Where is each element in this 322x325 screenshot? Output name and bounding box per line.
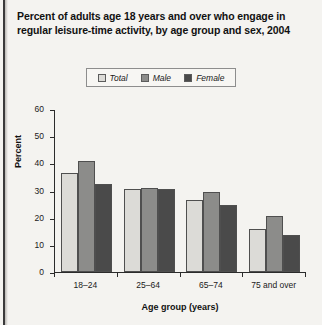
y-tick-label: 50 xyxy=(35,131,44,141)
bar-series-container xyxy=(55,110,306,272)
legend-swatch-icon xyxy=(184,74,192,82)
scan-edge-shadow xyxy=(5,0,8,325)
bar-male-2 xyxy=(203,192,220,272)
x-tick xyxy=(242,273,243,277)
x-tick xyxy=(180,273,181,277)
legend-swatch-icon xyxy=(141,74,149,82)
x-tick xyxy=(117,273,118,277)
y-tick: 40 xyxy=(50,164,54,165)
x-tick xyxy=(305,273,306,277)
bar-total-0 xyxy=(61,173,78,272)
y-tick-label: 10 xyxy=(35,240,44,250)
figure-page: Percent of adults age 18 years and over … xyxy=(0,0,322,325)
plot-area: 0102030405060 18–2425–6465–7475 and over xyxy=(54,110,306,273)
y-tick-label: 40 xyxy=(35,158,44,168)
y-tick: 30 xyxy=(50,192,54,193)
bar-male-0 xyxy=(78,161,95,272)
y-tick-label: 0 xyxy=(39,267,44,277)
y-tick: 50 xyxy=(50,137,54,138)
y-tick: 60 xyxy=(50,110,54,111)
y-tick: 10 xyxy=(50,246,54,247)
legend-label: Total xyxy=(110,73,128,83)
y-tick: 20 xyxy=(50,219,54,220)
bar-total-2 xyxy=(186,200,203,272)
legend-swatch-icon xyxy=(98,74,106,82)
y-tick-label: 60 xyxy=(35,104,44,114)
x-tick xyxy=(54,273,55,277)
bar-male-3 xyxy=(266,216,283,272)
legend-item: Total xyxy=(98,73,128,83)
x-tick-label: 18–24 xyxy=(74,280,98,290)
chart-legend: TotalMaleFemale xyxy=(86,68,236,87)
y-tick-label: 20 xyxy=(35,213,44,223)
bar-female-3 xyxy=(283,235,300,272)
bar-female-2 xyxy=(220,205,237,272)
x-tick-label: 75 and over xyxy=(251,280,296,290)
legend-label: Female xyxy=(196,73,224,83)
x-tick-label: 65–74 xyxy=(199,280,223,290)
chart-title: Percent of adults age 18 years and over … xyxy=(17,9,307,37)
x-axis-title: Age group (years) xyxy=(54,302,306,312)
bar-female-1 xyxy=(158,189,175,272)
y-tick-label: 30 xyxy=(35,186,44,196)
y-axis-title: Percent xyxy=(13,135,23,168)
x-tick-label: 25–64 xyxy=(136,280,160,290)
bar-female-0 xyxy=(95,184,112,272)
legend-label: Male xyxy=(153,73,171,83)
bar-total-3 xyxy=(249,229,266,272)
bar-total-1 xyxy=(124,189,141,272)
legend-item: Female xyxy=(184,73,224,83)
legend-item: Male xyxy=(141,73,171,83)
bar-male-1 xyxy=(141,188,158,272)
